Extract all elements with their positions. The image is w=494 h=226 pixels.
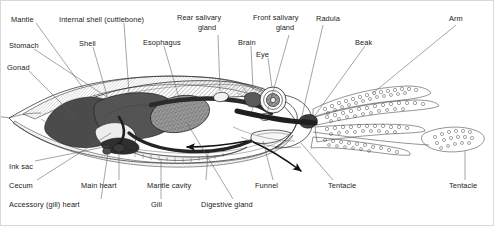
label-stomach: Stomach bbox=[9, 41, 39, 50]
label-accessory-gill-heart: Accessory (gill) heart bbox=[9, 200, 80, 209]
leader-mantle bbox=[36, 23, 83, 88]
label-arm: Arm bbox=[449, 14, 463, 23]
accessory-gill-heart bbox=[103, 148, 111, 154]
label-eye: Eye bbox=[256, 50, 269, 59]
squid-anatomy-illustration: Mantle Stomach Gonad Internal shell (cut… bbox=[1, 1, 494, 226]
label-esophagus: Esophagus bbox=[143, 38, 181, 47]
arm-2 bbox=[315, 100, 439, 125]
label-shell: Shell bbox=[79, 39, 96, 48]
label-front-salivary-gland-line1: Front salivary bbox=[253, 13, 299, 22]
leader-arm bbox=[373, 25, 456, 93]
label-mantle-cavity: Mantle cavity bbox=[147, 181, 191, 190]
label-tentacle-mid: Tentacle bbox=[328, 181, 356, 190]
brain bbox=[244, 93, 261, 107]
label-tentacle-right: Tentacle bbox=[449, 181, 477, 190]
label-internal-shell: Internal shell (cuttlebone) bbox=[59, 15, 144, 24]
label-brain: Brain bbox=[238, 38, 256, 47]
label-beak: Beak bbox=[355, 38, 372, 47]
label-cecum: Cecum bbox=[9, 181, 33, 190]
label-main-heart: Main heart bbox=[81, 181, 117, 190]
label-rear-salivary-gland-line2: gland bbox=[198, 23, 216, 32]
label-funnel: Funnel bbox=[255, 181, 278, 190]
leader-tentacle-mid bbox=[301, 143, 333, 180]
label-gonad: Gonad bbox=[7, 63, 30, 72]
arms-and-tentacles-group bbox=[311, 86, 484, 155]
label-mantle: Mantle bbox=[11, 15, 34, 24]
label-gill: Gill bbox=[151, 200, 162, 209]
leader-funnel bbox=[263, 141, 273, 180]
label-rear-salivary-gland-line1: Rear salivary bbox=[177, 13, 221, 22]
label-digestive-gland: Digestive gland bbox=[201, 200, 253, 209]
tentacle-club-suckers bbox=[433, 129, 473, 149]
main-heart bbox=[113, 144, 125, 152]
label-radula: Radula bbox=[316, 14, 341, 23]
label-ink-sac: Ink sac bbox=[9, 162, 33, 171]
squid-anatomy-diagram: Mantle Stomach Gonad Internal shell (cut… bbox=[0, 0, 494, 226]
leader-eye bbox=[268, 58, 272, 88]
funnel bbox=[251, 130, 291, 144]
leader-beak bbox=[313, 46, 365, 118]
leader-brain bbox=[251, 46, 253, 90]
label-front-salivary-gland-line2: gland bbox=[276, 23, 294, 32]
tentacle-club bbox=[421, 127, 484, 152]
